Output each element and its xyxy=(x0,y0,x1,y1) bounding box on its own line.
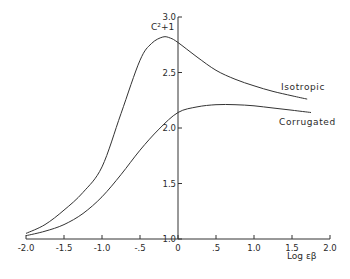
x-tick-label: -2.0 xyxy=(18,243,35,253)
x-tick-label: 2.0 xyxy=(323,243,337,253)
y-tick-label: 1.0 xyxy=(162,234,176,244)
x-tick-label: 1.0 xyxy=(247,243,261,253)
series-isotropic-line xyxy=(26,37,307,234)
y-tick-label: 2.5 xyxy=(162,68,176,78)
x-tick-label: -1.0 xyxy=(94,243,111,253)
series-label-corrugated: Corrugated xyxy=(279,117,336,127)
y-tick-label: 3.0 xyxy=(162,12,176,22)
x-axis-title: Log εβ xyxy=(287,251,317,261)
x-tick-label: 0 xyxy=(175,243,180,253)
y-tick-label: 1.5 xyxy=(162,179,176,189)
x-tick-label: .5 xyxy=(212,243,220,253)
series-label-isotropic: Isotropic xyxy=(281,82,325,92)
y-tick-label: 2.0 xyxy=(162,123,176,133)
axes: -2.0-1.5-1.0-.50.51.01.52.01.01.52.02.53… xyxy=(18,12,337,253)
x-tick-label: -1.5 xyxy=(56,243,73,253)
x-tick-label: -.5 xyxy=(134,243,145,253)
y-axis-title: C²+1 xyxy=(151,22,174,32)
line-chart: -2.0-1.5-1.0-.50.51.01.52.01.01.52.02.53… xyxy=(0,0,350,279)
